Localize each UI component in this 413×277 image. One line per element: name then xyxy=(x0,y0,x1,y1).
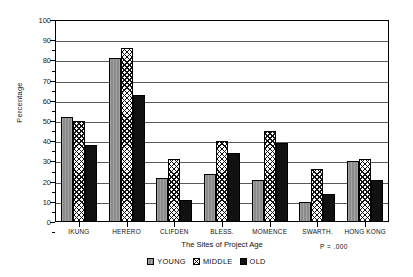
x-axis-tick-mark xyxy=(317,222,318,227)
bar xyxy=(121,48,133,222)
bar xyxy=(299,202,311,222)
x-axis-tick-mark xyxy=(174,222,175,227)
x-axis-category-label: CLIFDEN xyxy=(150,228,198,235)
bar xyxy=(204,174,216,222)
x-axis-category-labels: IKUNGHEREROCLIFDENBLESS.MOMENCESWARTH.HO… xyxy=(55,228,389,235)
bar-group xyxy=(150,20,198,222)
bar xyxy=(216,141,228,222)
legend-entry: OLD xyxy=(240,257,266,266)
bar xyxy=(311,169,323,222)
y-axis-tick-label: 70 xyxy=(11,76,51,85)
x-axis-category-label: BLESS. xyxy=(198,228,246,235)
x-axis-tick-mark xyxy=(365,222,366,227)
y-axis-tick-label: 80 xyxy=(11,56,51,65)
bar xyxy=(359,159,371,222)
x-axis-category-label: SWARTH. xyxy=(294,228,342,235)
y-axis-tick-label: 50 xyxy=(11,117,51,126)
p-value-annotation: P = .000 xyxy=(320,243,348,250)
bar-group xyxy=(294,20,342,222)
x-axis-category-label: IKUNG xyxy=(55,228,103,235)
legend-swatch-icon xyxy=(147,258,154,265)
y-axis-tick-label: 0 xyxy=(11,218,51,227)
x-axis-tick-mark xyxy=(270,222,271,227)
x-axis-tick-mark xyxy=(127,222,128,227)
x-axis-tick-mark xyxy=(79,222,80,227)
chart-legend: YOUNGMIDDLEOLD xyxy=(0,257,413,266)
bar xyxy=(347,161,359,222)
bar xyxy=(276,143,288,222)
legend-label: YOUNG xyxy=(157,257,186,266)
bar xyxy=(156,178,168,222)
bar-group xyxy=(55,20,103,222)
bar xyxy=(323,194,335,222)
legend-swatch-icon xyxy=(193,258,200,265)
x-axis-category-label: HERERO xyxy=(103,228,151,235)
bar-group xyxy=(246,20,294,222)
bar-group xyxy=(341,20,389,222)
y-axis-tick-label: 90 xyxy=(11,36,51,45)
legend-swatch-icon xyxy=(240,258,247,265)
y-axis-tick-label: 30 xyxy=(11,157,51,166)
y-axis-tick-label: 20 xyxy=(11,177,51,186)
legend-label: OLD xyxy=(250,257,266,266)
bar xyxy=(264,131,276,222)
bar xyxy=(228,153,240,222)
bar xyxy=(109,58,121,222)
x-axis-category-label: HONG KONG xyxy=(341,228,389,235)
bar xyxy=(180,200,192,222)
bar xyxy=(168,159,180,222)
legend-entry: MIDDLE xyxy=(193,257,233,266)
y-axis-tick-label: 100 xyxy=(11,16,51,25)
y-axis-tick-label: 40 xyxy=(11,137,51,146)
bar xyxy=(85,145,97,222)
x-axis-category-label: MOMENCE xyxy=(246,228,294,235)
bar-group xyxy=(198,20,246,222)
x-axis-tick-mark xyxy=(222,222,223,227)
bar-chart-figure: Percentage 0102030405060708090100 IKUNGH… xyxy=(0,0,413,277)
bar xyxy=(133,95,145,222)
y-axis-tick-label: 10 xyxy=(11,197,51,206)
bar-group xyxy=(103,20,151,222)
bar xyxy=(252,180,264,222)
y-axis-tick-mark xyxy=(50,222,55,223)
bar xyxy=(73,121,85,222)
y-axis-tick-label: 60 xyxy=(11,96,51,105)
bar xyxy=(61,117,73,222)
bar-groups-layer xyxy=(55,20,389,222)
legend-label: MIDDLE xyxy=(203,257,233,266)
bar xyxy=(371,180,383,222)
legend-entry: YOUNG xyxy=(147,257,186,266)
